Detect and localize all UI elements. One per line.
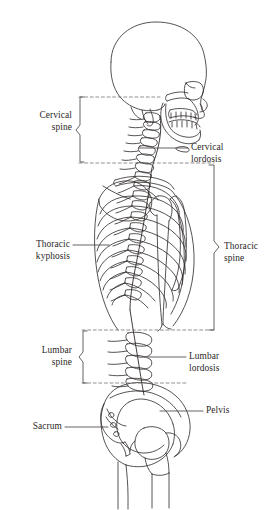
cervical-vertebrae (120, 113, 161, 175)
teeth-lower (172, 121, 197, 129)
coccyx (121, 442, 130, 456)
skull-cranium (111, 22, 207, 118)
maxilla (169, 99, 199, 125)
styloid-hyoid (176, 147, 189, 153)
label-thoracic-spine: Thoracic spine (224, 241, 272, 264)
label-lumbar-lordosis-line2: lordosis (189, 363, 269, 375)
label-thoracic-spine-line2: spine (224, 253, 272, 265)
lumbar-spine-brace (79, 331, 87, 383)
femur-head-and-shaft (130, 427, 181, 508)
label-pelvis: Pelvis (206, 405, 258, 417)
teeth-upper (171, 112, 196, 120)
label-sacrum-line1: Sacrum (8, 421, 62, 433)
label-cervical-spine-line2: spine (8, 122, 72, 134)
label-thoracic-kyphosis: Thoracic kyphosis (3, 239, 70, 262)
label-cervical-lordosis-line1: Cervical (191, 142, 271, 154)
label-lumbar-lordosis: Lumbar lordosis (189, 351, 269, 374)
label-pelvis-line1: Pelvis (206, 405, 258, 417)
sacrum (101, 404, 126, 443)
thoracic-vertebrae (110, 172, 151, 310)
rib-cage (95, 186, 195, 330)
pelvis-ilium (101, 383, 190, 467)
label-lumbar-spine: Lumbar spine (10, 345, 72, 368)
label-thoracic-kyphosis-line2: kyphosis (3, 251, 70, 263)
femur-distal-left (118, 462, 128, 509)
cervical-spine-brace (76, 97, 84, 162)
label-lumbar-spine-line1: Lumbar (10, 345, 72, 357)
label-lumbar-lordosis-line1: Lumbar (189, 351, 269, 363)
label-sacrum: Sacrum (8, 421, 62, 433)
orbit (184, 82, 203, 101)
label-thoracic-spine-line1: Thoracic (224, 241, 272, 253)
label-cervical-lordosis-line2: lordosis (191, 154, 271, 166)
label-cervical-lordosis: Cervical lordosis (191, 142, 271, 165)
mandible (161, 103, 201, 144)
label-cervical-spine: Cervical spine (8, 110, 72, 133)
occipital-region (131, 107, 141, 119)
lumbar-vertebrae (108, 310, 153, 395)
label-thoracic-kyphosis-line1: Thoracic (3, 239, 70, 251)
label-cervical-spine-line1: Cervical (8, 110, 72, 122)
label-lumbar-spine-line2: spine (10, 357, 72, 369)
thoracic-spine-brace (209, 165, 219, 330)
